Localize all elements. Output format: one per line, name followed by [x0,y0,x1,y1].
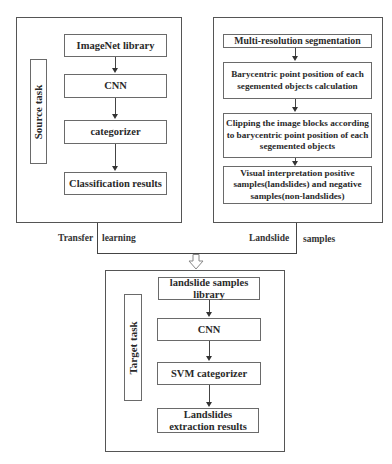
hollow-arrow-down-icon [188,254,204,270]
arrow-down-icon [112,114,118,119]
arrow-down-icon [112,68,118,73]
arrow-down-icon [292,107,298,112]
transfer-label: Transfer [58,233,93,243]
source-cnn-node: CNN [64,74,167,98]
target-cnn-node: CNN [157,318,261,341]
arrow-down-icon [206,402,212,407]
learning-label: learning [102,233,136,243]
barycentric-calculation-node: Barycentric point position of each segem… [223,62,372,99]
arrow-down-icon [206,312,212,317]
arrow-shaft [115,144,116,167]
arrow-down-icon [112,166,118,171]
landslide-label: Landslide [249,233,289,243]
arrow-shaft [115,98,116,115]
arrow-down-icon [206,356,212,361]
source-task-label: Source task [30,59,47,164]
imagenet-library-node: ImageNet library [64,34,167,57]
svm-categorizer-node: SVM categorizer [157,362,261,385]
landslide-samples-connector [296,223,297,254]
visual-interpretation-node: Visual interpretation positive samples(l… [223,166,372,204]
arrow-shaft [209,341,210,357]
categorizer-node: categorizer [64,120,167,144]
arrow-down-icon [292,56,298,61]
landslide-samples-library-node: landslide samples library [158,277,260,300]
landslides-extraction-results-node: Landslides extraction results [157,408,259,433]
arrow-shaft [209,385,210,403]
clipping-blocks-node: Clipping the image blocks according to b… [223,113,372,158]
transfer-learning-connector [97,223,98,254]
target-task-label: Target task [124,294,142,401]
samples-label: samples [303,234,335,244]
classification-results-node: Classification results [64,172,167,195]
multi-resolution-segmentation-node: Multi-resolution segmentation [223,34,372,48]
arrow-down-icon [292,161,298,166]
